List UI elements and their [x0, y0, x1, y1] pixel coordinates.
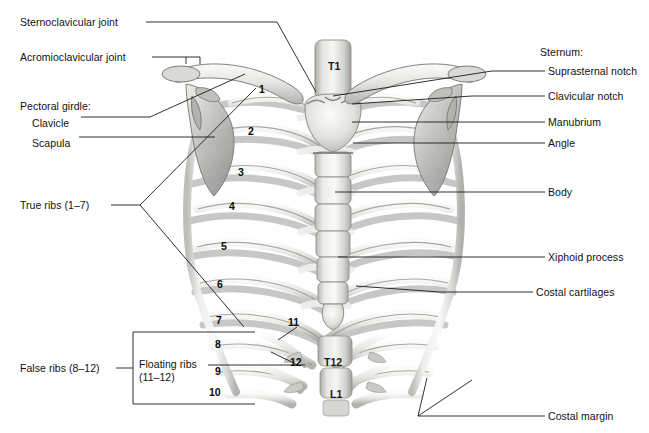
rib-number-11: 11 — [288, 316, 299, 328]
rib-number-8: 8 — [215, 338, 221, 350]
rib-number-12: 12 — [290, 356, 302, 368]
label-acromioclavicular-joint: Acromioclavicular joint — [20, 51, 126, 64]
label-sternum-group: Sternum: — [540, 46, 583, 59]
vertebra-label-t1: T1 — [328, 60, 340, 72]
rib-number-4: 4 — [229, 200, 235, 212]
rib-number-10: 10 — [209, 386, 221, 398]
anatomy-figure: Sternoclavicular joint Acromioclavicular… — [0, 0, 649, 433]
label-clavicular-notch: Clavicular notch — [548, 90, 624, 103]
label-true-ribs: True ribs (1–7) — [20, 199, 89, 212]
label-manubrium: Manubrium — [548, 116, 601, 129]
rib-number-2: 2 — [248, 125, 254, 137]
label-suprasternal-notch: Suprasternal notch — [548, 65, 637, 78]
rib-number-3: 3 — [238, 166, 244, 178]
rib-number-7: 7 — [216, 314, 222, 326]
label-scapula: Scapula — [32, 137, 70, 150]
rib-number-9: 9 — [215, 365, 221, 377]
label-clavicle: Clavicle — [32, 117, 69, 130]
label-xiphoid-process: Xiphoid process — [548, 251, 623, 264]
label-sternoclavicular-joint: Sternoclavicular joint — [20, 16, 118, 29]
rib-number-1: 1 — [259, 83, 265, 95]
label-costal-margin: Costal margin — [548, 410, 613, 423]
vertebra-label-l1: L1 — [330, 388, 342, 400]
rib-number-6: 6 — [217, 278, 223, 290]
label-costal-cartilages: Costal cartilages — [536, 286, 614, 299]
label-false-ribs: False ribs (8–12) — [20, 362, 100, 375]
label-floating-ribs: Floating ribs (11–12) — [139, 358, 197, 383]
label-body: Body — [548, 186, 572, 199]
vertebra-label-t12: T12 — [324, 356, 342, 368]
label-pectoral-girdle: Pectoral girdle: — [20, 100, 91, 113]
rib-number-5: 5 — [221, 240, 227, 252]
label-angle: Angle — [548, 137, 575, 150]
